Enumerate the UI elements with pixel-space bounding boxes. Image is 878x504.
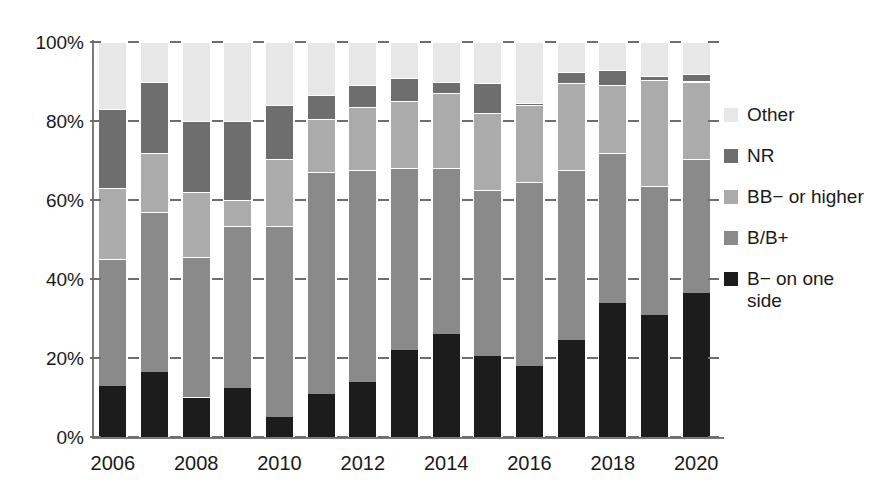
y-gridline-dash	[587, 41, 598, 43]
y-gridline-dash	[90, 41, 101, 43]
x-tick-label-2008: 2008	[166, 452, 226, 474]
y-gridline-dash	[212, 199, 223, 201]
y-gridline-dash	[545, 120, 556, 122]
y-gridline-dash	[628, 199, 639, 201]
y-gridline-dash	[170, 278, 181, 280]
x-tick-label-2006: 2006	[83, 452, 143, 474]
y-gridline-dash	[378, 278, 389, 280]
y-gridline-dash	[670, 278, 681, 280]
y-gridline-dash	[708, 278, 719, 280]
legend-swatch-icon	[724, 108, 738, 122]
x-tick-label-2018: 2018	[583, 452, 643, 474]
y-gridline-dash	[170, 436, 181, 438]
y-gridline-dash	[337, 41, 348, 43]
y-gridline-dash	[295, 278, 306, 280]
y-gridline-dash	[378, 41, 389, 43]
y-gridline-dash	[212, 436, 223, 438]
y-gridline-dash	[503, 41, 514, 43]
y-gridline-dash	[545, 199, 556, 201]
legend-label: BB− or higher	[747, 186, 864, 208]
y-gridline-dash	[295, 436, 306, 438]
y-gridline-dash	[462, 278, 473, 280]
y-gridline-dash	[670, 199, 681, 201]
y-gridline-dash	[128, 41, 139, 43]
y-gridline-dash	[420, 357, 431, 359]
y-gridline-dash	[708, 436, 719, 438]
y-tick-label-80: 80%	[10, 112, 84, 131]
y-gridline-dash	[503, 436, 514, 438]
y-gridline-dash	[708, 357, 719, 359]
y-gridline-dash	[337, 120, 348, 122]
legend-item[interactable]: BB− or higher	[724, 186, 874, 208]
y-gridline-dash	[670, 41, 681, 43]
y-gridline-dash	[90, 120, 101, 122]
legend-item[interactable]: B/B+	[724, 227, 874, 249]
y-gridline-dash	[170, 357, 181, 359]
y-gridline-dash	[90, 199, 101, 201]
y-gridline-dash	[337, 199, 348, 201]
y-gridline-dash	[253, 278, 264, 280]
x-tick-label-2020: 2020	[666, 452, 726, 474]
y-gridline-dash	[628, 436, 639, 438]
legend-label: NR	[747, 145, 774, 167]
y-gridline-dash	[128, 357, 139, 359]
y-gridline-dash	[462, 41, 473, 43]
y-gridline-dash	[462, 436, 473, 438]
x-tick-label-2010: 2010	[250, 452, 310, 474]
y-gridline-dash	[337, 436, 348, 438]
x-tick-label-2012: 2012	[333, 452, 393, 474]
y-gridline-dash	[587, 436, 598, 438]
y-gridline-dash	[295, 357, 306, 359]
y-gridline-dash	[253, 199, 264, 201]
legend-swatch-icon	[724, 149, 738, 163]
y-gridline-dash	[337, 278, 348, 280]
x-tick-label-2014: 2014	[416, 452, 476, 474]
y-gridline-dash	[128, 199, 139, 201]
y-gridline-dash	[378, 436, 389, 438]
legend-label: Other	[747, 104, 795, 126]
legend-swatch-icon	[724, 190, 738, 204]
y-gridline-dash	[378, 199, 389, 201]
y-gridline-dash	[420, 278, 431, 280]
legend-label: B/B+	[747, 227, 789, 249]
stacked-bar-chart: 100% 80% 60% 40% 20% 0% 2006200820102012…	[0, 0, 878, 504]
y-gridline-dash	[587, 120, 598, 122]
y-gridline-dash	[295, 199, 306, 201]
y-gridline-dash	[420, 41, 431, 43]
y-gridline-dash	[708, 120, 719, 122]
y-gridline-dash	[212, 41, 223, 43]
y-gridline-dash	[708, 199, 719, 201]
x-tick-label-2016: 2016	[500, 452, 560, 474]
y-tick-label-60: 60%	[10, 191, 84, 210]
y-gridline-dash	[503, 120, 514, 122]
legend-item[interactable]: Other	[724, 104, 874, 126]
y-gridline-dash	[128, 120, 139, 122]
y-gridline-dash	[170, 120, 181, 122]
y-gridline-dash	[378, 120, 389, 122]
y-gridline-dash	[503, 357, 514, 359]
legend-swatch-icon	[724, 231, 738, 245]
gridline-dash-layer	[92, 42, 717, 437]
y-gridline-dash	[212, 278, 223, 280]
y-gridline-dash	[587, 199, 598, 201]
y-gridline-dash	[212, 120, 223, 122]
y-gridline-dash	[462, 357, 473, 359]
legend-label: B− on one side	[747, 268, 865, 312]
y-gridline-dash	[587, 357, 598, 359]
y-gridline-dash	[420, 120, 431, 122]
y-gridline-dash	[545, 278, 556, 280]
y-gridline-dash	[212, 357, 223, 359]
y-gridline-dash	[587, 278, 598, 280]
y-gridline-dash	[295, 120, 306, 122]
y-gridline-dash	[90, 436, 101, 438]
chart-legend: OtherNRBB− or higherB/B+B− on one side	[724, 104, 874, 331]
y-gridline-dash	[670, 436, 681, 438]
y-gridline-dash	[670, 120, 681, 122]
y-gridline-dash	[545, 436, 556, 438]
plot-area	[92, 42, 717, 437]
legend-item[interactable]: NR	[724, 145, 874, 167]
legend-item[interactable]: B− on one side	[724, 268, 874, 312]
y-gridline-dash	[253, 436, 264, 438]
y-gridline-dash	[295, 41, 306, 43]
y-gridline-dash	[708, 41, 719, 43]
